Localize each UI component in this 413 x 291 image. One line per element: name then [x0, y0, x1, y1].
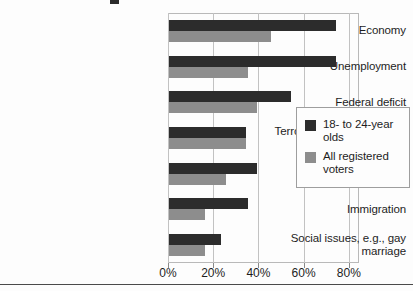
bar-all-voters	[169, 245, 205, 256]
bar-youth	[169, 91, 291, 102]
bar-all-voters	[169, 174, 226, 185]
bar-row: Social issues, e.g., gay marriage	[0, 227, 413, 263]
footer-divider	[0, 284, 413, 285]
scan-artifact	[110, 0, 119, 4]
legend-swatch-dark-icon	[305, 120, 316, 131]
category-label: Immigration	[251, 203, 413, 216]
bar-youth	[169, 127, 246, 138]
bar-chart: EconomyUnemploymentFederal deficitTerror…	[0, 0, 413, 291]
x-tick-label: 40%	[237, 266, 279, 280]
bar-row: Immigration	[0, 192, 413, 228]
bar-all-voters	[169, 67, 248, 78]
bar-all-voters	[169, 102, 257, 113]
bar-row: Economy	[0, 13, 413, 49]
bar-all-voters	[169, 209, 205, 220]
bar-youth	[169, 56, 336, 67]
bar-youth	[169, 198, 248, 209]
chart-legend: 18- to 24-year olds All registered voter…	[296, 107, 410, 188]
legend-item-all-voters: All registered voters	[305, 150, 409, 176]
legend-label-youth: 18- to 24-year olds	[323, 118, 409, 144]
legend-label-all-voters: All registered voters	[323, 150, 409, 176]
bar-youth	[169, 163, 257, 174]
bar-row: Unemployment	[0, 49, 413, 85]
legend-swatch-gray-icon	[305, 152, 316, 163]
x-tick-label: 0%	[147, 266, 189, 280]
bar-all-voters	[169, 138, 246, 149]
category-label: Social issues, e.g., gay marriage	[251, 232, 413, 258]
x-tick-label: 80%	[328, 266, 370, 280]
bar-youth	[169, 234, 221, 245]
legend-item-youth: 18- to 24-year olds	[305, 118, 409, 144]
bar-youth	[169, 20, 336, 31]
bar-all-voters	[169, 31, 271, 42]
x-tick-label: 60%	[283, 266, 325, 280]
x-tick-label: 20%	[192, 266, 234, 280]
